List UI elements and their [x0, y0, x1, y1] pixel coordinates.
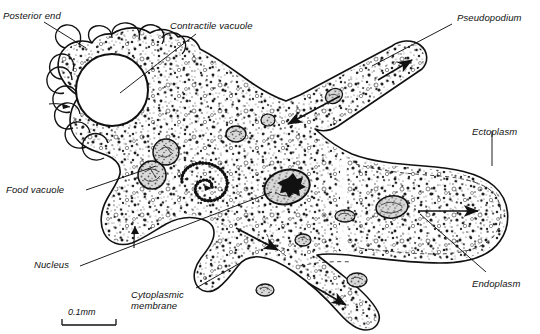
label-food-vacuole: Food vacuole — [6, 184, 64, 195]
label-cytoplasmic-membrane: Cytoplasmic membrane — [131, 289, 184, 311]
food-vacuole — [335, 210, 355, 222]
scale-bar-label: 0.1mm — [68, 307, 96, 317]
food-vacuole — [256, 284, 274, 296]
food-vacuole — [261, 114, 275, 126]
amoeba-diagram: Posterior end Contractile vacuole Pseudo… — [0, 0, 540, 334]
food-vacuole — [226, 126, 246, 142]
label-endoplasm: Endoplasm — [472, 278, 520, 289]
label-ectoplasm: Ectoplasm — [472, 126, 517, 137]
label-pseudopodium: Pseudopodium — [457, 12, 522, 23]
contractile-vacuole — [76, 54, 148, 126]
label-nucleus: Nucleus — [34, 259, 69, 270]
scale-bar — [62, 319, 116, 325]
food-vacuole — [347, 273, 367, 287]
amoeba-figure — [0, 0, 540, 334]
label-posterior-end: Posterior end — [3, 10, 61, 21]
food-vacuole — [138, 161, 166, 189]
food-vacuole — [295, 234, 311, 246]
label-contractile-vacuole: Contractile vacuole — [170, 20, 253, 31]
